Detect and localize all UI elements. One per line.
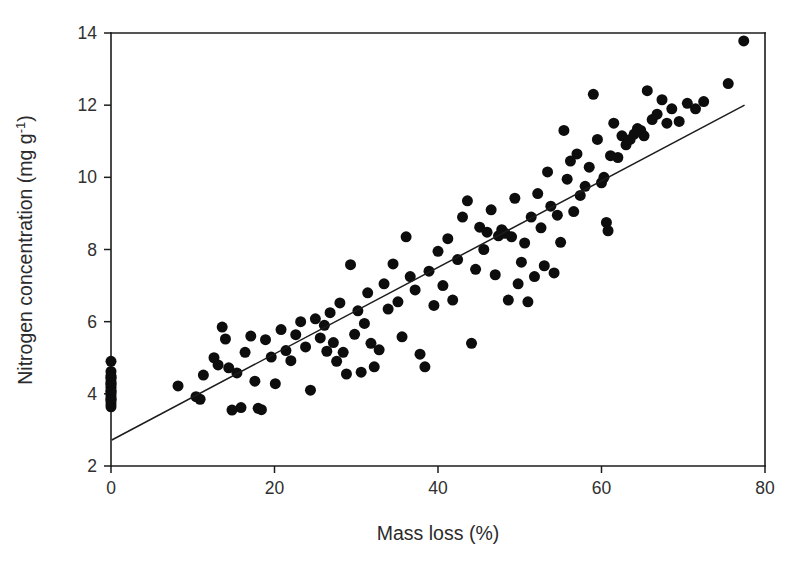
data-point xyxy=(433,246,444,257)
data-point xyxy=(374,344,385,355)
data-point xyxy=(462,195,473,206)
data-point xyxy=(415,349,426,360)
data-point xyxy=(345,259,356,270)
data-point xyxy=(603,225,614,236)
data-point xyxy=(562,174,573,185)
y-tick-label: 12 xyxy=(78,95,97,115)
data-point xyxy=(539,260,550,271)
data-point xyxy=(359,318,370,329)
data-point xyxy=(536,222,547,233)
y-tick-label: 8 xyxy=(87,240,97,260)
data-point xyxy=(447,295,458,306)
data-point xyxy=(235,402,246,413)
y-tick-label: 6 xyxy=(87,312,97,332)
data-point xyxy=(608,118,619,129)
data-point xyxy=(270,378,281,389)
data-point xyxy=(522,296,533,307)
data-point xyxy=(519,238,530,249)
data-point xyxy=(256,404,267,415)
data-point xyxy=(516,257,527,268)
figure-container: 2468101214 020406080 Mass loss (%) Nitro… xyxy=(0,0,794,566)
data-point xyxy=(466,338,477,349)
data-point xyxy=(558,125,569,136)
data-point xyxy=(401,231,412,242)
data-point xyxy=(310,313,321,324)
data-point xyxy=(513,278,524,289)
data-point xyxy=(276,324,287,335)
data-point xyxy=(568,206,579,217)
data-point xyxy=(249,376,260,387)
data-point xyxy=(245,331,256,342)
x-tick-group: 020406080 xyxy=(106,466,775,498)
data-point xyxy=(503,295,514,306)
x-tick-label: 20 xyxy=(265,478,285,498)
data-point xyxy=(674,116,685,127)
scatter-plot: 2468101214 020406080 Mass loss (%) Nitro… xyxy=(0,0,794,566)
data-points-layer xyxy=(106,35,750,415)
data-point xyxy=(738,35,749,46)
data-point xyxy=(341,368,352,379)
data-point xyxy=(656,94,667,105)
regression-line xyxy=(112,105,745,440)
data-point xyxy=(356,367,367,378)
data-point xyxy=(482,227,493,238)
data-point xyxy=(217,322,228,333)
data-point xyxy=(220,333,231,344)
data-point xyxy=(612,152,623,163)
x-tick-label: 40 xyxy=(428,478,448,498)
y-axis-title: Nitrogen concentration (mg g-1) xyxy=(13,115,37,385)
data-point xyxy=(571,148,582,159)
x-tick-label: 80 xyxy=(755,478,775,498)
data-point xyxy=(723,78,734,89)
y-tick-label: 10 xyxy=(78,167,98,187)
data-point xyxy=(290,329,301,340)
data-point xyxy=(661,118,672,129)
data-point xyxy=(334,297,345,308)
y-tick-label: 4 xyxy=(87,384,97,404)
data-point xyxy=(362,287,373,298)
data-point xyxy=(549,267,560,278)
data-point xyxy=(349,329,360,340)
data-point xyxy=(588,89,599,100)
data-point xyxy=(509,193,520,204)
data-point xyxy=(321,346,332,357)
data-point xyxy=(652,109,663,120)
x-tick-label: 60 xyxy=(592,478,612,498)
data-point xyxy=(532,188,543,199)
data-point xyxy=(106,356,117,367)
data-point xyxy=(369,361,380,372)
data-point xyxy=(552,210,563,221)
data-point xyxy=(437,280,448,291)
data-point xyxy=(397,331,408,342)
data-point xyxy=(419,361,430,372)
data-point xyxy=(592,134,603,145)
data-point xyxy=(383,304,394,315)
data-point xyxy=(331,356,342,367)
data-point xyxy=(490,269,501,280)
data-point xyxy=(698,96,709,107)
data-point xyxy=(555,237,566,248)
data-point xyxy=(470,264,481,275)
data-point xyxy=(506,231,517,242)
x-axis-title: Mass loss (%) xyxy=(377,522,499,544)
data-point xyxy=(486,204,497,215)
data-point xyxy=(240,347,251,358)
data-point xyxy=(198,370,209,381)
y-tick-label: 2 xyxy=(87,456,97,476)
data-point xyxy=(584,162,595,173)
data-point xyxy=(106,394,117,405)
data-point xyxy=(213,359,224,370)
data-point xyxy=(315,332,326,343)
data-point xyxy=(388,258,399,269)
data-point xyxy=(392,296,403,307)
data-point xyxy=(639,130,650,141)
data-point xyxy=(285,355,296,366)
data-point xyxy=(173,380,184,391)
data-point xyxy=(305,385,316,396)
data-point xyxy=(410,284,421,295)
data-point xyxy=(295,316,306,327)
x-tick-label: 0 xyxy=(106,478,116,498)
data-point xyxy=(442,233,453,244)
data-point xyxy=(379,278,390,289)
data-point xyxy=(542,166,553,177)
